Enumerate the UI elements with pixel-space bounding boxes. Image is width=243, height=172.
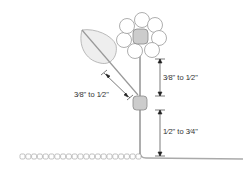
chain-stitch [49,154,54,159]
chain-stitch [136,154,141,159]
chain-stitch [113,154,118,159]
chain-stitch [61,154,66,159]
chain-stitch [78,154,83,159]
chain-stitch [55,154,60,159]
leaf-stem-label: 3⁄8" to 1⁄2" [74,90,109,99]
chain-stitches [20,154,141,159]
chain-stitch [72,154,77,159]
flower [117,13,167,59]
chain-stitch [107,154,112,159]
chain-stitch [66,154,71,159]
chain-stitch [84,154,89,159]
chain-stitch [26,154,31,159]
chain-stitch [124,154,129,159]
chain-stitch [90,154,95,159]
chain-stitch [101,154,106,159]
chain-stitch [32,154,37,159]
flower-to-node-label: 3⁄8" to 1⁄2" [163,73,198,82]
chain-stitch [130,154,135,159]
chain-stitch [37,154,42,159]
node-to-base-label: 1⁄2" to 3⁄4" [163,127,198,136]
chain-stitch [20,154,25,159]
stem-node [133,96,147,110]
chain-stitch [119,154,124,159]
flower-diagram: 3⁄8" to 1⁄2" 3⁄8" to 1⁄2" 1⁄2" to 3⁄4" [0,0,243,172]
base-line [140,152,243,159]
flower-center [133,29,148,44]
chain-stitch [43,154,48,159]
chain-stitch [95,154,100,159]
